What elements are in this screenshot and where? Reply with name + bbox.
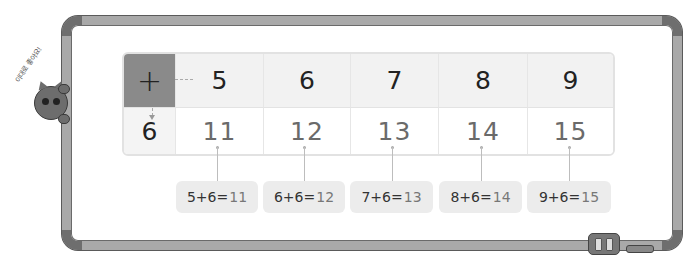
equation-result: 12 [316, 189, 334, 205]
equation-lhs: 7+6= [361, 189, 402, 205]
dashed-guide-horizontal [175, 79, 193, 80]
frame-corner [662, 16, 682, 36]
frame-corner [62, 16, 82, 36]
equation-box: 6+6=12 [263, 181, 345, 213]
marker-icon [626, 245, 654, 253]
connector-line [481, 147, 482, 182]
equation-box: 9+6=15 [527, 181, 611, 213]
equation-box: 7+6=13 [350, 181, 433, 213]
equation-lhs: 8+6= [450, 189, 491, 205]
result-cell: 13 [351, 108, 439, 154]
eraser-icon [588, 233, 620, 255]
equation-box: 5+6=11 [176, 181, 258, 213]
equation-lhs: 9+6= [539, 189, 580, 205]
connector-line [217, 147, 218, 182]
cat-paw-icon [58, 84, 70, 94]
equation-result: 14 [493, 189, 511, 205]
cat-paw-icon [58, 114, 70, 124]
header-cell: 8 [439, 54, 528, 108]
header-cell: 9 [528, 54, 613, 108]
equation-lhs: 5+6= [187, 189, 228, 205]
frame-corner [62, 230, 82, 250]
equation-result: 15 [581, 189, 599, 205]
addition-table: + 5 6 7 8 9 6 11 12 13 14 15 [122, 52, 615, 156]
connector-line [392, 147, 393, 182]
equation-box: 8+6=14 [439, 181, 522, 213]
header-cell: 5 [176, 54, 264, 108]
arrow-down-icon [149, 115, 155, 120]
header-cell: 6 [264, 54, 351, 108]
equation-result: 13 [404, 189, 422, 205]
equation-result: 11 [229, 189, 247, 205]
header-cell: 7 [351, 54, 439, 108]
mascot-speech: 이대로 좋아요! [12, 44, 44, 83]
result-cell: 11 [176, 108, 264, 154]
connector-line [304, 147, 305, 182]
frame-corner [662, 230, 682, 250]
connector-line [569, 147, 570, 182]
result-cell: 14 [439, 108, 528, 154]
equation-lhs: 6+6= [274, 189, 315, 205]
operator-cell: + [124, 54, 176, 108]
result-cell: 12 [264, 108, 351, 154]
